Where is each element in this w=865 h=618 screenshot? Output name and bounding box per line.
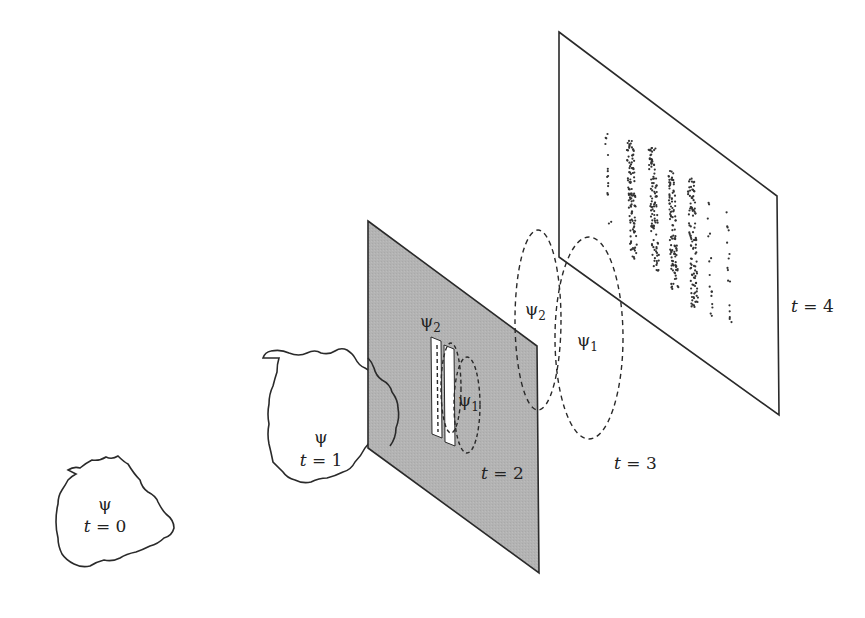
detector-screen-t4 bbox=[559, 32, 779, 415]
psi-label-t0: ψ bbox=[98, 496, 111, 513]
wavefunction-blob-t0 bbox=[56, 456, 174, 567]
psi-label-t1: ψ bbox=[314, 429, 327, 446]
psi1-label-t3: ψ1 bbox=[577, 332, 598, 349]
time-label-t3: t = 3 bbox=[614, 455, 657, 472]
psi1-label-slit: ψ1 bbox=[458, 392, 479, 409]
time-label-t4: t = 4 bbox=[791, 298, 834, 315]
double-slit-diagram bbox=[0, 0, 865, 618]
time-label-t0: t = 0 bbox=[84, 518, 127, 535]
time-label-t1: t = 1 bbox=[300, 452, 343, 469]
psi2-label-t3: ψ2 bbox=[525, 301, 546, 318]
psi2-label-slit: ψ2 bbox=[420, 313, 441, 330]
time-label-t2: t = 2 bbox=[481, 465, 524, 482]
